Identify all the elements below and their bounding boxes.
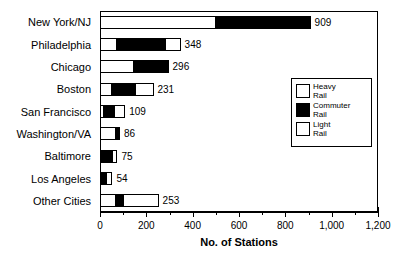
x-tick-label: 600	[231, 220, 248, 231]
x-tick-major	[332, 212, 333, 217]
x-tick-major	[285, 212, 286, 217]
legend-item: Commuter Rail	[296, 102, 368, 119]
bar-segment	[100, 194, 116, 207]
bar-row: 348	[100, 38, 378, 51]
x-tick-major	[239, 212, 240, 217]
bar-segment	[116, 194, 123, 207]
bar-segment	[116, 127, 120, 140]
bar-value-label: 296	[173, 60, 190, 73]
bar-segment	[165, 38, 181, 51]
x-tick-label: 200	[138, 220, 155, 231]
bar-row: 909	[100, 16, 378, 29]
x-tick-label: 0	[97, 220, 103, 231]
legend-item-label: Light Rail	[313, 121, 330, 138]
bar-value-label: 348	[185, 38, 202, 51]
bar-segment	[135, 83, 153, 96]
category-label: Los Angeles	[31, 173, 91, 185]
legend-item-label: Heavy Rail	[313, 83, 336, 100]
bar-segment	[104, 105, 114, 118]
x-tick-major	[193, 212, 194, 217]
category-label: Baltimore	[45, 150, 91, 162]
x-axis	[100, 212, 378, 220]
legend-item-label: Commuter Rail	[313, 102, 350, 119]
x-tick-label: 1,200	[365, 220, 390, 231]
bar-segment	[100, 38, 117, 51]
x-axis-end-cap	[100, 207, 101, 212]
category-label: Other Cities	[33, 195, 91, 207]
x-tick-minor	[355, 212, 356, 215]
commuter-rail-swatch	[296, 103, 310, 117]
stacked-bar-chart: New York/NJPhiladelphiaChicagoBostonSan …	[0, 0, 401, 259]
bar-segment	[117, 38, 164, 51]
bar-value-label: 909	[315, 16, 332, 29]
x-tick-major	[378, 212, 379, 217]
bar-segment	[216, 16, 311, 29]
light-rail-swatch	[296, 122, 310, 136]
x-axis-end-cap	[378, 207, 379, 212]
category-axis: New York/NJPhiladelphiaChicagoBostonSan …	[0, 11, 95, 212]
category-label: New York/NJ	[28, 16, 91, 28]
bar-segment	[123, 194, 158, 207]
bar-row: 54	[100, 172, 378, 185]
x-tick-minor	[262, 212, 263, 215]
x-tick-major	[146, 212, 147, 217]
bar-segment	[100, 60, 134, 73]
category-label: Philadelphia	[31, 39, 91, 51]
bar-value-label: 54	[117, 172, 128, 185]
bar-value-label: 253	[163, 194, 180, 207]
category-label: Boston	[57, 83, 91, 95]
bar-value-label: 86	[124, 127, 135, 140]
x-axis-title: No. of Stations	[100, 236, 378, 248]
x-tick-minor	[170, 212, 171, 215]
bar-value-label: 231	[158, 83, 175, 96]
x-tick-major	[100, 212, 101, 217]
category-label: Chicago	[51, 61, 91, 73]
bar-segment	[100, 150, 112, 163]
bar-value-label: 75	[121, 150, 132, 163]
bar-segment	[100, 83, 112, 96]
bar-row: 253	[100, 194, 378, 207]
bar-segment	[100, 127, 116, 140]
legend-item: Light Rail	[296, 121, 368, 138]
chart-legend: Heavy RailCommuter RailLight Rail	[291, 78, 372, 147]
x-tick-label: 400	[184, 220, 201, 231]
category-label: San Francisco	[21, 106, 91, 118]
bar-segment	[134, 60, 169, 73]
x-tick-label: 800	[277, 220, 294, 231]
bar-segment	[100, 16, 216, 29]
bar-segment	[112, 150, 118, 163]
heavy-rail-swatch	[296, 84, 310, 98]
x-tick-label: 1,000	[319, 220, 344, 231]
bar-row: 296	[100, 60, 378, 73]
bar-segment	[114, 105, 125, 118]
x-tick-minor	[123, 212, 124, 215]
legend-item: Heavy Rail	[296, 83, 368, 100]
x-tick-minor	[216, 212, 217, 215]
bar-segment	[106, 172, 113, 185]
category-label: Washington/VA	[16, 128, 91, 140]
bar-row: 75	[100, 150, 378, 163]
x-tick-minor	[309, 212, 310, 215]
bar-segment	[112, 83, 135, 96]
bar-value-label: 109	[129, 105, 146, 118]
